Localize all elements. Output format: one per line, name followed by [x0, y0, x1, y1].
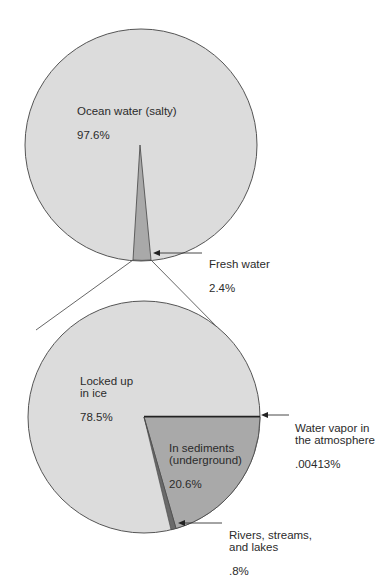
- ocean-water-value: 97.6%: [77, 129, 177, 141]
- water-vapor-label: Water vapor in the atmosphere .00413%: [295, 410, 375, 482]
- water-vapor-value: .00413%: [295, 458, 375, 470]
- sediments-label: In sediments (underground) 20.6%: [169, 430, 242, 502]
- rivers-label: Rivers, streams, and lakes .8%: [229, 517, 312, 579]
- sediments-value: 20.6%: [169, 478, 242, 490]
- ocean-water-label-text: Ocean water (salty): [77, 105, 177, 117]
- ocean-water-label: Ocean water (salty) 97.6%: [77, 93, 177, 153]
- ice-label-text: Locked up in ice: [80, 375, 133, 399]
- fresh-water-value: 2.4%: [209, 282, 270, 294]
- rivers-value: .8%: [229, 565, 312, 577]
- sediments-label-text: In sediments (underground): [169, 442, 242, 466]
- fresh-water-label-text: Fresh water: [209, 258, 270, 270]
- arrowhead-icon: [261, 412, 268, 418]
- ice-label: Locked up in ice 78.5%: [80, 363, 133, 435]
- rivers-label-text: Rivers, streams, and lakes: [229, 529, 312, 553]
- ice-value: 78.5%: [80, 411, 133, 423]
- water-vapor-label-text: Water vapor in the atmosphere: [295, 422, 375, 446]
- fresh-water-label: Fresh water 2.4%: [209, 246, 270, 306]
